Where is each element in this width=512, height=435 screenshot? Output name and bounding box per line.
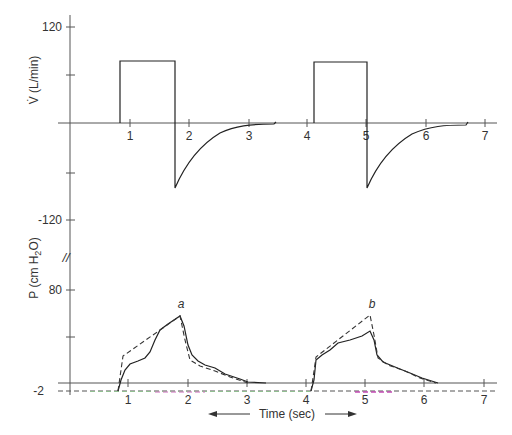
flow-x-tick-labels: 1 2 3 4 5 6 7: [127, 129, 489, 143]
arrow-right-icon: [348, 411, 357, 417]
svg-text:4: 4: [303, 393, 310, 407]
svg-text:3: 3: [244, 393, 251, 407]
svg-text:2: 2: [185, 393, 192, 407]
flow-trace-cycle-2: [314, 62, 468, 188]
pressure-x-tick-labels: 1 2 3 4 5 6 7: [125, 393, 488, 407]
svg-text:3: 3: [246, 129, 253, 143]
peak-label-b: b: [369, 297, 376, 311]
svg-text:7: 7: [482, 129, 489, 143]
flow-panel: 120 V̇ (L/min) 1 2 3 4 5 6 7: [27, 15, 497, 230]
svg-text:1: 1: [127, 129, 134, 143]
svg-text:4: 4: [304, 129, 311, 143]
svg-text:5: 5: [362, 393, 369, 407]
pressure-y-tick-label-80: 80: [49, 283, 63, 297]
flow-trace-cycle-1: [120, 61, 276, 188]
pressure-y-tick-label-120: -120: [38, 213, 62, 227]
svg-text:6: 6: [423, 129, 430, 143]
time-axis-label: Time (sec): [208, 407, 357, 421]
svg-text:2: 2: [186, 129, 193, 143]
peak-label-a: a: [178, 297, 185, 311]
flow-y-tick-label-120: 120: [42, 20, 62, 34]
svg-text:1: 1: [125, 393, 132, 407]
pressure-solid-cycle-1: [118, 316, 266, 391]
pressure-y-tick-label-neg2: -2: [33, 384, 44, 398]
flow-y-axis-title: V̇ (L/min): [27, 56, 41, 105]
time-axis-title: Time (sec): [259, 407, 315, 421]
svg-text:6: 6: [421, 393, 428, 407]
pressure-dashed-cycle-1: [118, 316, 248, 391]
axis-break-marker: //: [61, 250, 71, 265]
pressure-dashed-cycle-2: [311, 315, 436, 391]
pressure-y-axis-title: P (cm H2O): [27, 237, 43, 298]
pressure-panel: -120 // 80 P (cm H2O): [27, 213, 497, 407]
arrow-left-icon: [208, 411, 217, 417]
ventilator-waveform-chart: 120 V̇ (L/min) 1 2 3 4 5 6 7: [0, 0, 512, 435]
svg-text:7: 7: [481, 393, 488, 407]
svg-text:5: 5: [363, 129, 370, 143]
